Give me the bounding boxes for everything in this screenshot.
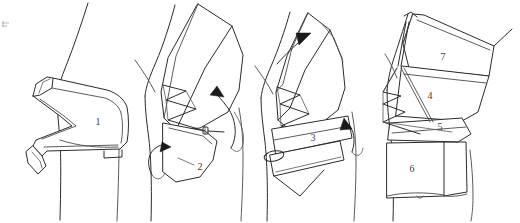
- piece-label-2: 2: [197, 161, 202, 172]
- registration-mark: [2, 21, 9, 27]
- panel-2-upper-drape: [161, 4, 243, 130]
- draping-sequence-illustration: 1: [0, 0, 520, 223]
- piece-label-4: 4: [427, 90, 432, 101]
- panel-1-group: 1: [26, 3, 129, 221]
- piece-label-3: 3: [310, 132, 315, 143]
- piece-label-1: 1: [95, 116, 100, 127]
- figure-root: 1: [0, 0, 520, 223]
- panel-2-group: 2: [135, 4, 244, 221]
- panel-3-upper-drape: [276, 13, 345, 132]
- panel-2-lower-drape: [163, 123, 217, 182]
- panel-4-piece-4: 4: [396, 66, 489, 121]
- panel-4-piece-6: 6: [387, 142, 467, 198]
- piece-label-7: 7: [440, 51, 445, 62]
- panel-4-group: 7 4 5 6: [383, 12, 512, 221]
- panel-3-group: 3: [255, 12, 363, 221]
- panel-4-piece-7: 7: [403, 14, 512, 76]
- piece-label-6: 6: [409, 163, 414, 174]
